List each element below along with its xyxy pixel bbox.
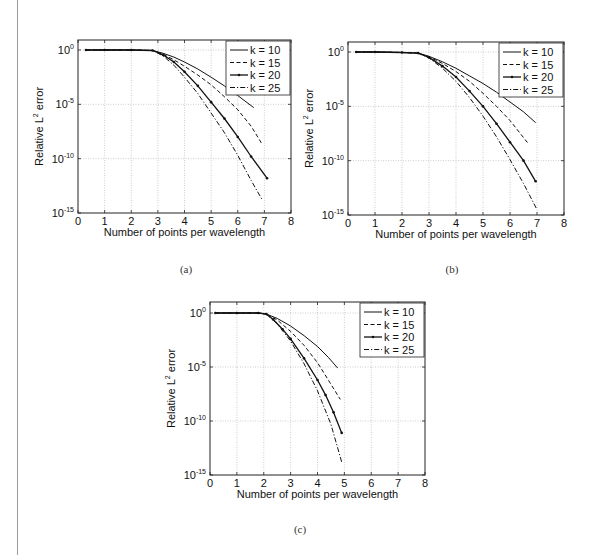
legend-entry: k = 25 — [384, 344, 414, 356]
caption-c: (c) — [280, 523, 320, 535]
legend-entry: k = 15 — [384, 319, 414, 331]
x-tick-label: 0 — [207, 477, 213, 489]
y-axis-label: Relative L2 error — [164, 349, 177, 428]
legend-entry: k = 20 — [384, 331, 414, 343]
y-tick-label: 10-5 — [188, 360, 207, 373]
caption-b: (b) — [432, 263, 472, 275]
chart-panel-c: 01234567810010-510-1010-15Number of poin… — [0, 0, 592, 555]
y-tick-label: 100 — [190, 306, 206, 319]
caption-a: (a) — [166, 263, 206, 275]
x-tick-label: 8 — [422, 477, 428, 489]
legend-entry: k = 10 — [384, 306, 414, 318]
y-tick-label: 10-10 — [184, 414, 206, 427]
x-axis-label: Number of points per wavelength — [237, 488, 398, 500]
y-tick-label: 10-15 — [184, 468, 206, 481]
